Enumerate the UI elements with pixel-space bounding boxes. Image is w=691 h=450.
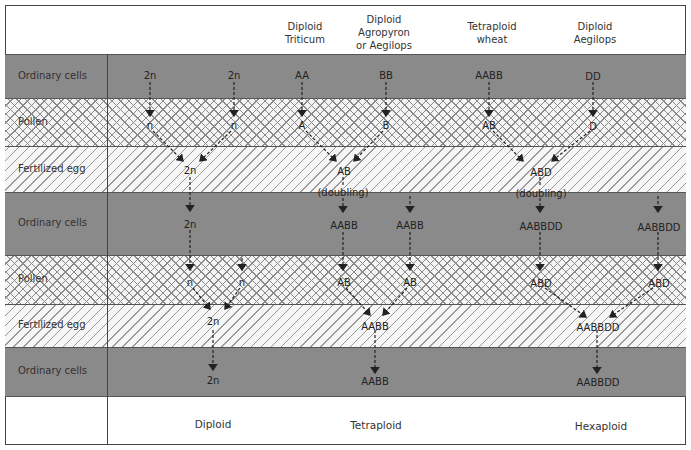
genome-label: AB — [337, 166, 351, 177]
genome-label: n — [187, 277, 193, 288]
genome-label: 2n — [184, 219, 197, 230]
genome-label: AABB — [475, 70, 503, 81]
genome-label: A — [299, 120, 306, 131]
genome-label: AA — [295, 70, 309, 81]
genome-label: 2n — [228, 70, 241, 81]
genome-label: 2n — [144, 70, 157, 81]
ploidy-label-hexaploid: Hexaploid — [575, 420, 627, 432]
genome-label: ABD — [530, 167, 551, 178]
genome-label: D — [589, 121, 597, 132]
genome-label: AABBDD — [576, 377, 619, 388]
ploidy-label-tetraploid: Tetraploid — [350, 419, 402, 431]
genome-label: AABB — [330, 220, 358, 231]
doubling-label: (doubling) — [317, 187, 368, 198]
genome-label: n — [231, 120, 237, 131]
genome-label: 2n — [207, 375, 220, 386]
genome-label: BB — [379, 70, 393, 81]
ploidy-label-diploid: Diploid — [195, 418, 232, 430]
genome-label: AB — [403, 277, 417, 288]
genome-label: ABD — [530, 278, 551, 289]
genome-label: AB — [337, 277, 351, 288]
genome-label: AABBDD — [519, 221, 562, 232]
genome-label: 2n — [207, 316, 220, 327]
genome-label: 2n — [184, 165, 197, 176]
genome-label: AABBDD — [637, 222, 680, 233]
genome-label: n — [239, 277, 245, 288]
genome-label: AABB — [396, 220, 424, 231]
genome-label: n — [147, 120, 153, 131]
genome-label: AABBDD — [576, 322, 619, 333]
genome-label: AABB — [361, 376, 389, 387]
genome-label: AABB — [361, 321, 389, 332]
genome-label: B — [383, 120, 390, 131]
genome-label: AB — [482, 120, 496, 131]
genome-label: ABD — [648, 278, 669, 289]
doubling-label: (doubling) — [515, 188, 566, 199]
genome-label: DD — [585, 71, 600, 82]
